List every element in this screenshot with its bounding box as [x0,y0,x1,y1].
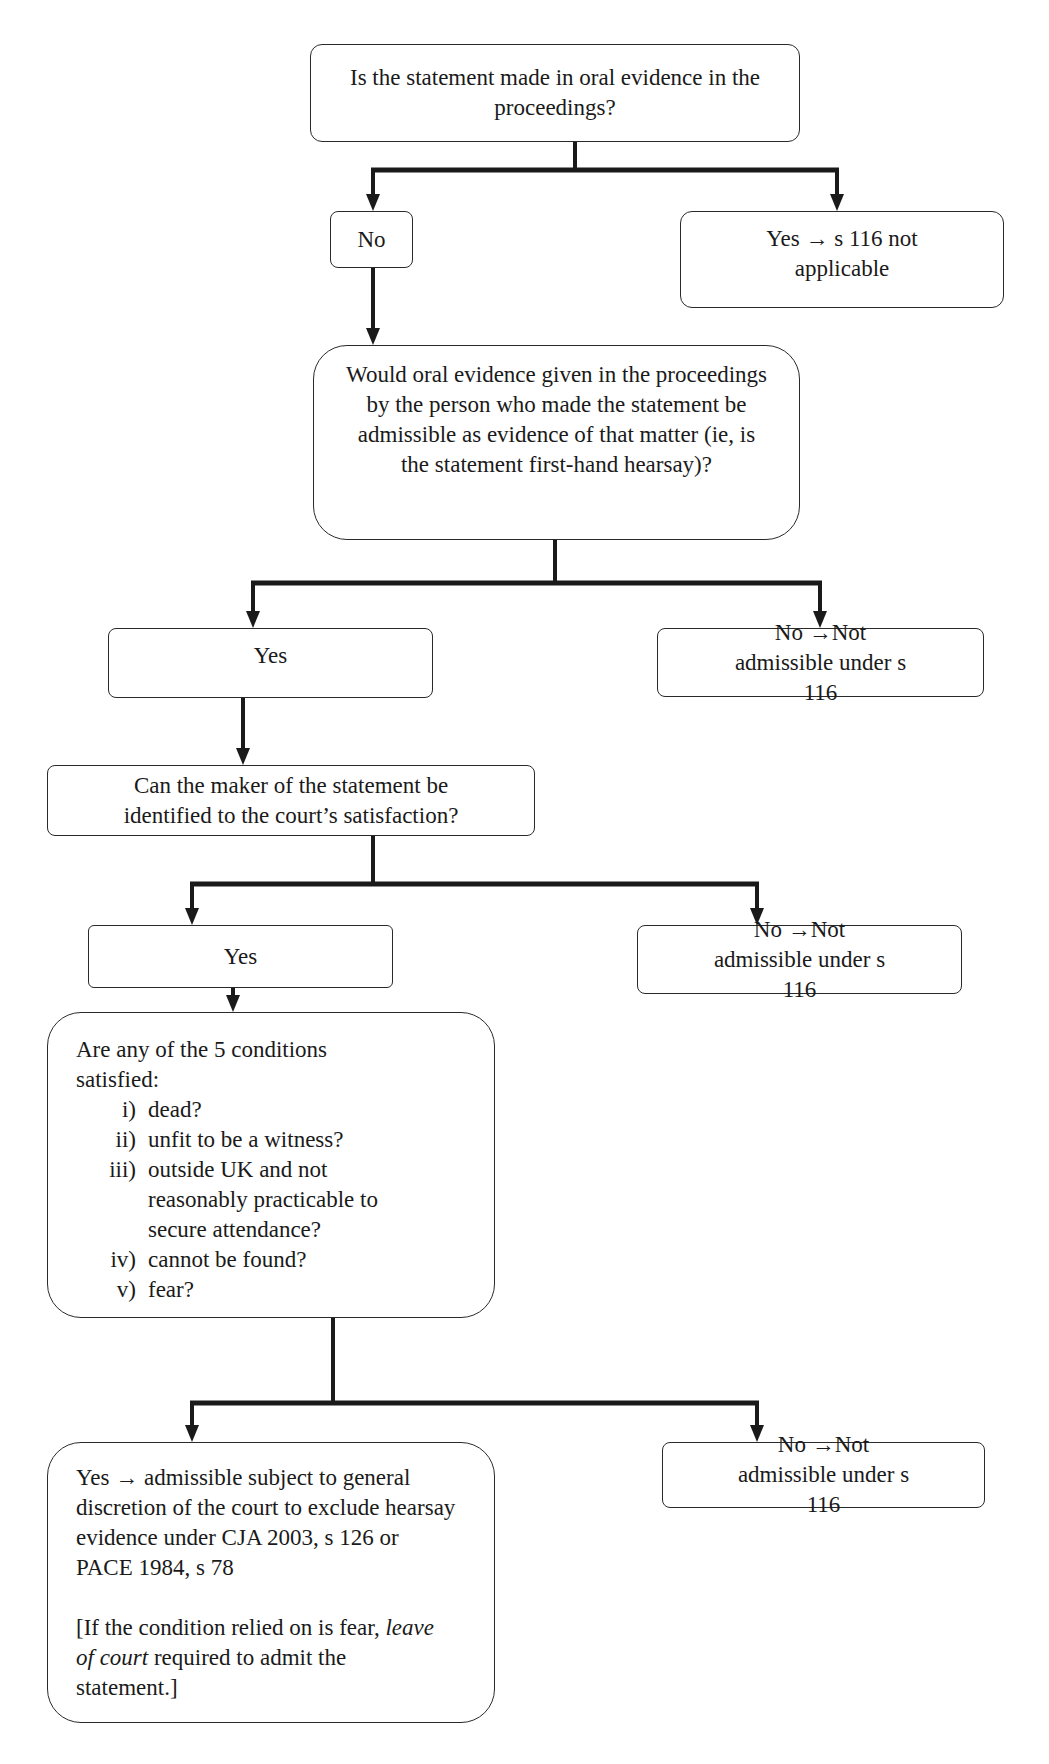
question-oral-evidence-text: Is the statement made in oral evidence i… [331,63,779,123]
five-conditions-content: Are any of the 5 conditions satisfied: i… [76,1035,408,1305]
answer-no-oral: No [330,211,413,268]
condition-item: ii)unfit to be a witness? [76,1125,408,1155]
condition-item: i)dead? [76,1095,408,1125]
answer-no-not-admissible-1: No →Not admissible under s 116 [657,628,984,697]
question-maker-identified-text: Can the maker of the statement be identi… [88,771,494,831]
answer-no-oral-text: No [357,225,385,255]
answer-yes-admissible-content: Yes → admissible subject to general disc… [76,1463,456,1703]
answer-no-not-admissible-2: No →Not admissible under s 116 [637,925,962,994]
condition-item: v)fear? [76,1275,408,1305]
answer-no-not-admissible-3: No →Not admissible under s 116 [662,1442,985,1508]
answer-yes-identified: Yes [88,925,393,988]
answer-yes-first-hand-text: Yes [254,641,287,671]
answer-yes-not-applicable-text: Yes → s 116 not applicable [751,224,933,284]
condition-item: iii)outside UK and not reasonably practi… [76,1155,408,1245]
question-first-hand-hearsay-text: Would oral evidence given in the proceed… [342,360,771,480]
answer-no-not-admissible-2-text: No →Not admissible under s 116 [708,915,891,1005]
leave-of-court-note: [If the condition relied on is fear, lea… [76,1613,436,1703]
conditions-list: i)dead? ii)unfit to be a witness? iii)ou… [76,1095,408,1305]
answer-yes-not-applicable: Yes → s 116 not applicable [680,211,1004,308]
answer-yes-identified-text: Yes [224,942,257,972]
answer-yes-first-hand: Yes [108,628,433,698]
question-oral-evidence: Is the statement made in oral evidence i… [310,44,800,142]
five-conditions-intro: Are any of the 5 conditions satisfied: [76,1035,376,1095]
question-first-hand-hearsay: Would oral evidence given in the proceed… [313,345,800,540]
answer-no-not-admissible-3-text: No →Not admissible under s 116 [733,1430,914,1520]
question-five-conditions: Are any of the 5 conditions satisfied: i… [47,1012,495,1318]
answer-no-not-admissible-1-text: No →Not admissible under s 116 [728,618,913,708]
admissible-text: Yes → admissible subject to general disc… [76,1463,456,1583]
answer-yes-admissible: Yes → admissible subject to general disc… [47,1442,495,1723]
question-maker-identified: Can the maker of the statement be identi… [47,765,535,836]
condition-item: iv)cannot be found? [76,1245,408,1275]
